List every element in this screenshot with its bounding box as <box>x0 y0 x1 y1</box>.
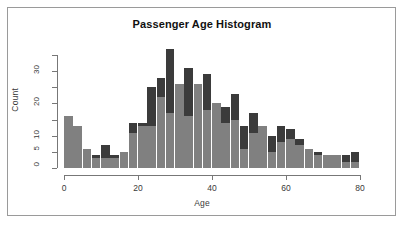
histogram-bar <box>314 55 323 168</box>
histogram-figure: Passenger Age Histogram 05102030 Count 0… <box>0 0 404 225</box>
histogram-bar-subset <box>129 133 138 169</box>
histogram-bar <box>258 55 267 168</box>
x-axis-tick <box>138 175 139 180</box>
histogram-bar-subset <box>147 126 156 168</box>
y-axis-label: Count <box>10 88 20 112</box>
histogram-bar-subset <box>323 155 332 168</box>
histogram-bar <box>138 55 147 168</box>
histogram-bar <box>147 55 156 168</box>
histogram-bar <box>212 55 221 168</box>
histogram-bar <box>323 55 332 168</box>
histogram-bar-subset <box>175 84 184 168</box>
histogram-bar <box>277 55 286 168</box>
histogram-bar-subset <box>295 145 304 168</box>
histogram-bar-subset <box>184 116 193 168</box>
x-axis-tick-label: 80 <box>348 183 372 193</box>
y-axis-tick-label: 0 <box>33 162 49 166</box>
y-axis-tick-label: 5 <box>33 146 49 150</box>
x-axis-tick <box>360 175 361 180</box>
histogram-bar <box>286 55 295 168</box>
histogram-bar-subset <box>305 149 314 168</box>
histogram-bar <box>92 55 101 168</box>
histogram-bar-subset <box>203 110 212 168</box>
histogram-bar <box>110 55 119 168</box>
x-axis-tick-label: 60 <box>274 183 298 193</box>
histogram-bar <box>120 55 129 168</box>
y-axis-tick <box>52 168 57 169</box>
histogram-bar <box>305 55 314 168</box>
x-axis-tick-label: 40 <box>200 183 224 193</box>
histogram-bars <box>64 55 360 168</box>
histogram-bar-subset <box>240 149 249 168</box>
x-axis-label: Age <box>0 198 404 208</box>
histogram-bar <box>231 55 240 168</box>
x-axis-tick-label: 0 <box>52 183 76 193</box>
histogram-bar <box>83 55 92 168</box>
histogram-bar <box>221 55 230 168</box>
y-axis-line <box>57 55 58 168</box>
histogram-bar-subset <box>101 158 110 168</box>
histogram-bar-subset <box>83 149 92 168</box>
histogram-bar <box>157 55 166 168</box>
histogram-bar <box>129 55 138 168</box>
x-axis-tick-label: 20 <box>126 183 150 193</box>
histogram-bar-subset <box>221 123 230 168</box>
y-axis-tick <box>52 71 57 72</box>
histogram-bar <box>295 55 304 168</box>
x-axis-tick <box>212 175 213 180</box>
histogram-bar <box>240 55 249 168</box>
histogram-bar <box>249 55 258 168</box>
histogram-bar <box>268 55 277 168</box>
y-axis-tick <box>52 120 57 121</box>
histogram-bar-subset <box>110 158 119 168</box>
histogram-bar <box>194 55 203 168</box>
histogram-bar-subset <box>268 152 277 168</box>
histogram-bar-subset <box>92 158 101 168</box>
x-axis-tick <box>64 175 65 180</box>
histogram-bar-subset <box>194 84 203 168</box>
histogram-bar <box>342 55 351 168</box>
histogram-bar-subset <box>73 126 82 168</box>
x-axis-tick <box>286 175 287 180</box>
histogram-bar-subset <box>166 113 175 168</box>
histogram-bar <box>332 55 341 168</box>
histogram-bar-subset <box>258 126 267 168</box>
histogram-bar <box>166 55 175 168</box>
histogram-bar-subset <box>120 152 129 168</box>
histogram-bar-subset <box>212 103 221 168</box>
histogram-bar-subset <box>249 133 258 169</box>
y-axis-tick <box>52 136 57 137</box>
histogram-bar-subset <box>157 97 166 168</box>
histogram-bar-subset <box>332 155 341 168</box>
plot-area <box>64 55 360 168</box>
histogram-bar <box>175 55 184 168</box>
histogram-bar <box>73 55 82 168</box>
histogram-bar-subset <box>138 126 147 168</box>
y-axis-tick <box>52 152 57 153</box>
histogram-bar-subset <box>277 142 286 168</box>
y-axis-tick-label: 20 <box>33 97 49 106</box>
y-axis-tick <box>52 103 57 104</box>
y-axis-tick <box>52 87 57 88</box>
histogram-bar <box>203 55 212 168</box>
histogram-bar-subset <box>314 155 323 168</box>
y-axis-tick-label: 30 <box>33 65 49 74</box>
histogram-bar <box>184 55 193 168</box>
histogram-bar <box>101 55 110 168</box>
histogram-bar-subset <box>351 162 360 168</box>
histogram-bar <box>351 55 360 168</box>
histogram-bar-subset <box>342 162 351 168</box>
histogram-bar-subset <box>286 139 295 168</box>
chart-title: Passenger Age Histogram <box>0 18 404 30</box>
histogram-bar-subset <box>64 116 73 168</box>
histogram-bar <box>64 55 73 168</box>
histogram-bar-subset <box>231 120 240 168</box>
y-axis-tick <box>52 55 57 56</box>
y-axis-tick-label: 10 <box>33 130 49 139</box>
